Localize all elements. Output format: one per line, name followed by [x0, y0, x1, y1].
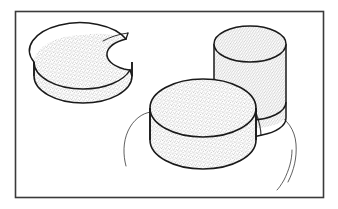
figure-root: [0, 0, 338, 209]
figure-canvas: [0, 0, 338, 209]
